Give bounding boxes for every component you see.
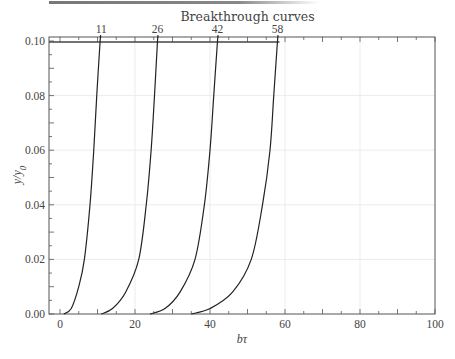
- y-tick-label: 0.00: [25, 308, 45, 320]
- top-annotations: 11264258: [96, 23, 284, 35]
- y-tick-label: 0.08: [25, 90, 45, 102]
- y-tick-label: 0.04: [25, 199, 45, 211]
- top-annotation: 58: [272, 23, 284, 35]
- x-tick-label: 0: [57, 318, 63, 330]
- x-tick-labels: 020406080100: [57, 318, 444, 330]
- y-tick-label: 0.06: [25, 144, 45, 156]
- y-tick-label: 0.02: [25, 253, 45, 265]
- x-tick-label: 40: [204, 318, 216, 330]
- gridlines: [49, 37, 435, 314]
- breakthrough-chart: 020406080100 0.000.020.040.060.080.10 11…: [0, 0, 455, 359]
- y-axis-label: y/y0: [10, 165, 28, 185]
- curve-58: [191, 36, 278, 314]
- plot-frame: [49, 37, 435, 314]
- axis-ticks: [49, 37, 435, 314]
- y-tick-label: 0.10: [25, 35, 45, 47]
- curve-26: [101, 36, 158, 314]
- x-tick-label: 100: [426, 318, 444, 330]
- y-tick-labels: 0.000.020.040.060.080.10: [25, 35, 45, 320]
- plot-border: [49, 37, 435, 314]
- curve-11: [64, 36, 101, 314]
- top-annotation: 26: [152, 23, 164, 35]
- curve-42: [150, 36, 218, 314]
- breakthrough-curves: [64, 36, 278, 314]
- top-annotation: 42: [212, 23, 224, 35]
- x-tick-label: 80: [354, 318, 366, 330]
- top-annotation: 11: [96, 23, 107, 35]
- x-axis-label: bτ: [237, 332, 248, 346]
- x-tick-label: 60: [279, 318, 291, 330]
- x-tick-label: 20: [129, 318, 141, 330]
